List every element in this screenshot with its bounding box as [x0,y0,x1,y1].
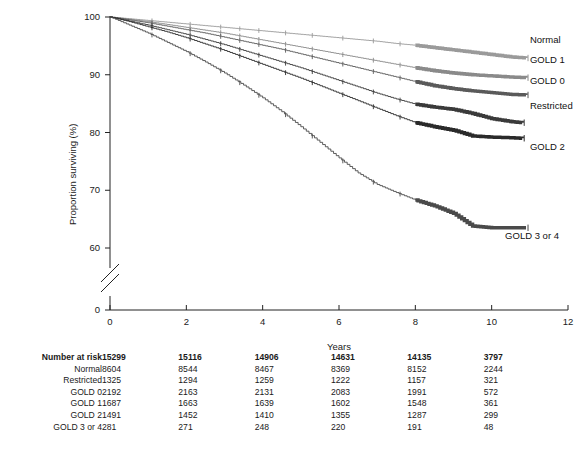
risk-cell: 8467 [255,364,301,376]
risk-row-label: GOLD 3 or 4 [0,422,102,434]
risk-row-label: Normal [0,364,102,376]
curve-label-gold-1: GOLD 1 [530,55,565,65]
curve-thick [415,45,526,58]
x-tick-label: 6 [324,317,354,327]
curve-label-gold-2: GOLD 2 [530,142,565,152]
curve-label-gold-3-or-4: GOLD 3 or 4 [505,231,559,241]
risk-cell: 8152 [407,364,453,376]
risk-table-row: GOLD 3 or 428127124822019148 [0,422,588,434]
risk-cell: 14906 [255,352,301,364]
risk-cell: 1639 [255,398,301,410]
curve-thick [415,82,526,95]
risk-cell: 1548 [407,398,453,410]
series-normal [110,17,528,61]
x-tick-label: 2 [171,317,201,327]
risk-row-label: GOLD 2 [0,410,102,422]
risk-table-row: Restricted13251294125912221157321 [0,375,588,387]
risk-cell: 281 [102,422,148,434]
x-tick-label: 12 [553,317,583,327]
risk-cell: 1602 [331,398,377,410]
x-tick-label: 8 [400,317,430,327]
risk-cell: 1259 [255,375,301,387]
series-gold-0 [110,17,528,98]
risk-row-label: GOLD 0 [0,387,102,399]
risk-cell: 2244 [484,364,530,376]
risk-cell: 2163 [178,387,224,399]
risk-cell: 1663 [178,398,224,410]
curve-label-gold-0: GOLD 0 [530,76,565,86]
risk-cell: 2083 [331,387,377,399]
curve-thin [110,17,415,45]
risk-cell: 220 [331,422,377,434]
risk-cell: 14135 [407,352,453,364]
x-axis-title: Years [299,342,379,352]
kaplan-meier-plot [0,0,588,350]
risk-cell: 1287 [407,410,453,422]
survival-figure: 100908070600024681012Proportion survivin… [0,0,588,456]
curve-thin [110,17,415,104]
risk-cell: 1991 [407,387,453,399]
risk-cell: 572 [484,387,530,399]
risk-cell: 48 [484,422,530,434]
risk-table-row: GOLD 214911452141013551287299 [0,410,588,422]
risk-cell: 299 [484,410,530,422]
risk-cell: 361 [484,398,530,410]
risk-cell: 8604 [102,364,148,376]
risk-table-row: GOLD 116871663163916021548361 [0,398,588,410]
risk-cell: 1325 [102,375,148,387]
curve-thick [415,123,522,139]
risk-cell: 2192 [102,387,148,399]
number-at-risk-table: Number at risk15299151161490614631141353… [0,352,588,433]
risk-cell: 2131 [255,387,301,399]
y-tick-label: 0 [74,305,100,315]
risk-cell: 14631 [331,352,377,364]
risk-cell: 1157 [407,375,453,387]
risk-cell: 15299 [102,352,148,364]
risk-cell: 248 [255,422,301,434]
risk-cell: 191 [407,422,453,434]
risk-cell: 3797 [484,352,530,364]
x-tick-label: 4 [248,317,278,327]
risk-cell: 1687 [102,398,148,410]
curve-thin [110,17,415,123]
risk-table-row: Normal860485448467836981522244 [0,364,588,376]
risk-cell: 15116 [178,352,224,364]
risk-cell: 8369 [331,364,377,376]
x-tick-label: 0 [95,317,125,327]
risk-cell: 1491 [102,410,148,422]
x-tick-label: 10 [477,317,507,327]
risk-cell: 1452 [178,410,224,422]
risk-cell: 1355 [331,410,377,422]
series-gold-3-or-4 [110,17,528,231]
y-axis-title: Proportion surviving (%) [68,124,78,225]
risk-row-label: Restricted [0,375,102,387]
y-tick-label: 90 [74,70,100,80]
curve-thin [110,17,415,68]
curve-thick [415,200,526,228]
risk-cell: 271 [178,422,224,434]
risk-row-label: GOLD 1 [0,398,102,410]
risk-cell: 1294 [178,375,224,387]
axis-break-slash-2 [101,274,119,292]
series-restricted [110,17,524,126]
curve-thick [415,68,526,78]
curve-label-normal: Normal [530,35,561,45]
y-tick-label: 60 [74,243,100,253]
risk-cell: 321 [484,375,530,387]
risk-row-label: Number at risk [0,352,102,364]
risk-table-row: GOLD 021922163213120831991572 [0,387,588,399]
curve-thick [415,104,522,122]
risk-cell: 8544 [178,364,224,376]
risk-cell: 1410 [255,410,301,422]
risk-table-row: Number at risk15299151161490614631141353… [0,352,588,364]
y-tick-label: 100 [74,12,100,22]
risk-cell: 1222 [331,375,377,387]
curve-label-restricted: Restricted [530,101,573,111]
